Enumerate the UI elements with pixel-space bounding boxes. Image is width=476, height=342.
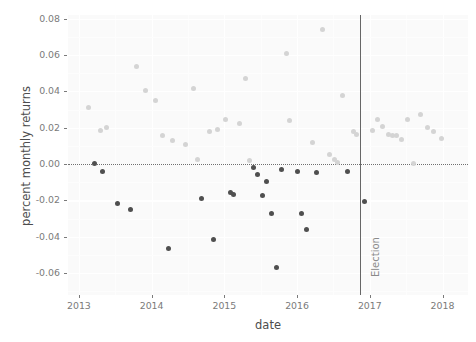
data-point bbox=[231, 192, 236, 197]
data-point bbox=[170, 138, 175, 143]
grid-line-major-horizontal bbox=[68, 273, 468, 274]
x-axis-tick-mark bbox=[224, 295, 225, 298]
grid-line-major-horizontal bbox=[68, 55, 468, 56]
y-axis-tick-mark bbox=[64, 237, 67, 238]
grid-line-minor-vertical bbox=[188, 15, 189, 295]
grid-line-major-horizontal bbox=[68, 91, 468, 92]
x-axis-tick-label: 2015 bbox=[204, 300, 244, 311]
data-point bbox=[115, 201, 120, 206]
grid-line-major-vertical bbox=[443, 15, 444, 295]
y-axis-tick-mark bbox=[64, 273, 67, 274]
grid-line-minor-vertical bbox=[115, 15, 116, 295]
y-axis-tick-label: 0.00 bbox=[28, 159, 60, 169]
data-point bbox=[375, 117, 380, 122]
grid-line-minor-vertical bbox=[261, 15, 262, 295]
x-axis-tick-label: 2016 bbox=[277, 300, 317, 311]
data-point bbox=[223, 117, 228, 122]
data-point bbox=[274, 265, 279, 270]
data-point bbox=[211, 237, 216, 242]
grid-line-minor-horizontal bbox=[68, 73, 468, 74]
data-point bbox=[418, 112, 423, 117]
data-point bbox=[310, 140, 315, 145]
data-point bbox=[370, 128, 375, 133]
x-axis-tick-label: 2013 bbox=[59, 300, 99, 311]
x-axis-tick-mark bbox=[443, 295, 444, 298]
x-axis-tick-label: 2018 bbox=[423, 300, 463, 311]
data-point bbox=[207, 129, 212, 134]
data-point bbox=[345, 169, 350, 174]
grid-line-minor-horizontal bbox=[68, 255, 468, 256]
data-point bbox=[251, 165, 256, 170]
data-point bbox=[295, 169, 300, 174]
y-axis-tick-label: -0.04 bbox=[28, 232, 60, 242]
data-point bbox=[166, 246, 171, 251]
data-point bbox=[160, 133, 165, 138]
data-point bbox=[362, 199, 367, 204]
data-point bbox=[439, 136, 444, 141]
data-point bbox=[327, 152, 332, 157]
data-point bbox=[191, 86, 196, 91]
y-axis-tick-label: -0.06 bbox=[28, 268, 60, 278]
data-point bbox=[195, 157, 200, 162]
y-axis-tick-mark bbox=[64, 19, 67, 20]
data-point bbox=[260, 193, 265, 198]
y-axis-tick-mark bbox=[64, 91, 67, 92]
data-point bbox=[98, 128, 103, 133]
grid-line-minor-horizontal bbox=[68, 37, 468, 38]
grid-line-minor-horizontal bbox=[68, 146, 468, 147]
data-point bbox=[287, 118, 292, 123]
x-axis-tick-mark bbox=[79, 295, 80, 298]
data-point bbox=[269, 211, 274, 216]
grid-line-minor-horizontal bbox=[68, 291, 468, 292]
data-point bbox=[284, 51, 289, 56]
y-axis-tick-labels: 0.080.060.040.020.00-0.02-0.04-0.06 bbox=[28, 0, 60, 342]
y-axis-tick-mark bbox=[64, 128, 67, 129]
data-point bbox=[92, 161, 97, 166]
grid-line-minor-vertical bbox=[406, 15, 407, 295]
x-axis-tick-mark bbox=[152, 295, 153, 298]
data-point bbox=[399, 137, 404, 142]
grid-line-major-vertical bbox=[224, 15, 225, 295]
election-line bbox=[360, 15, 362, 295]
y-axis-tick-mark bbox=[64, 55, 67, 56]
y-axis-tick-label: 0.06 bbox=[28, 50, 60, 60]
scatter-plot-figure: percent monthly returns 0.080.060.040.02… bbox=[0, 0, 476, 342]
data-point bbox=[134, 64, 139, 69]
data-point bbox=[243, 76, 248, 81]
x-axis-tick-mark bbox=[297, 295, 298, 298]
plot-panel: Election bbox=[68, 15, 468, 295]
grid-line-minor-vertical bbox=[333, 15, 334, 295]
data-point bbox=[86, 105, 91, 110]
data-point bbox=[405, 117, 410, 122]
y-axis-tick-mark bbox=[64, 164, 67, 165]
election-line-label: Election bbox=[370, 237, 381, 277]
zero-line bbox=[68, 164, 468, 165]
data-point bbox=[299, 211, 304, 216]
data-point bbox=[411, 161, 416, 166]
data-point bbox=[354, 132, 359, 137]
y-axis-tick-label: 0.08 bbox=[28, 14, 60, 24]
data-point bbox=[340, 93, 345, 98]
x-axis-tick-label: 2017 bbox=[350, 300, 390, 311]
data-point bbox=[215, 127, 220, 132]
y-axis-tick-label: 0.04 bbox=[28, 86, 60, 96]
grid-line-major-horizontal bbox=[68, 19, 468, 20]
data-point bbox=[304, 227, 309, 232]
grid-line-major-horizontal bbox=[68, 128, 468, 129]
data-point bbox=[255, 172, 260, 177]
data-point bbox=[431, 129, 436, 134]
grid-line-major-horizontal bbox=[68, 237, 468, 238]
grid-line-minor-horizontal bbox=[68, 110, 468, 111]
grid-line-major-vertical bbox=[152, 15, 153, 295]
data-point bbox=[104, 125, 109, 130]
data-point bbox=[128, 207, 133, 212]
grid-line-major-vertical bbox=[297, 15, 298, 295]
data-point bbox=[314, 170, 319, 175]
grid-line-major-horizontal bbox=[68, 200, 468, 201]
x-axis-tick-label: 2014 bbox=[132, 300, 172, 311]
grid-line-major-vertical bbox=[79, 15, 80, 295]
y-axis-tick-mark bbox=[64, 200, 67, 201]
data-point bbox=[100, 169, 105, 174]
y-axis-tick-label: 0.02 bbox=[28, 123, 60, 133]
data-point bbox=[320, 27, 325, 32]
